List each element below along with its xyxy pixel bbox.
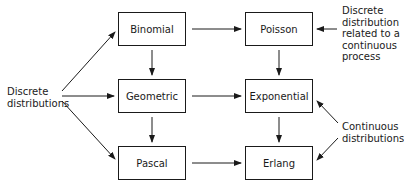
edge-continuous-to-erlang [317, 138, 338, 160]
node-poisson: Poisson [245, 12, 313, 46]
discrete-distributions-label: Discrete distributions [7, 86, 69, 109]
node-pascal-label: Pascal [136, 158, 167, 169]
edge-continuous-to-exponential [317, 101, 338, 123]
poisson-note-label: Discrete distribution related to a conti… [342, 5, 400, 63]
node-exponential-label: Exponential [249, 91, 308, 102]
edge-discrete-to-pascal [62, 101, 115, 159]
continuous-distributions-label: Continuous distributions [342, 121, 404, 144]
node-binomial-label: Binomial [130, 24, 174, 35]
node-exponential: Exponential [245, 79, 313, 113]
node-erlang: Erlang [245, 146, 313, 180]
node-erlang-label: Erlang [263, 158, 295, 169]
node-geometric: Geometric [118, 79, 186, 113]
node-poisson-label: Poisson [260, 24, 297, 35]
node-binomial: Binomial [118, 12, 186, 46]
node-pascal: Pascal [118, 146, 186, 180]
node-geometric-label: Geometric [126, 91, 178, 102]
edge-discrete-to-binomial [62, 32, 115, 91]
